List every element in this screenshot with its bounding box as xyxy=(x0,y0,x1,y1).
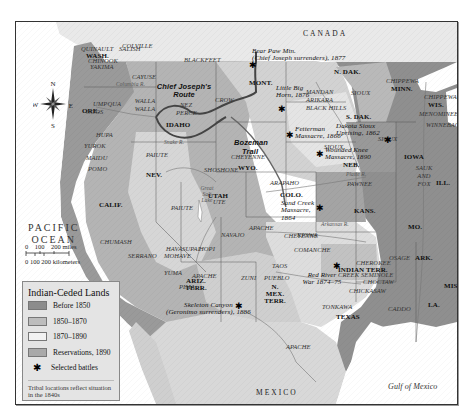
tribe-havasupai: HAVASUPAI xyxy=(166,246,200,253)
tribe-hopi: HOPI xyxy=(199,246,215,253)
tribe-arapaho: ARAPAHO xyxy=(270,180,299,187)
swatch-before-1850 xyxy=(28,301,47,310)
scale-miles: 0 100 200 miles xyxy=(25,243,80,250)
tribe-chippewa-wis: CHIPPEWA xyxy=(424,94,457,101)
tribe-yurok: YUROK xyxy=(84,143,106,150)
legend-item-before-1850: Before 1850 xyxy=(28,298,119,314)
state-la: LA. xyxy=(428,302,440,309)
state-n-dak: N. DAK. xyxy=(334,69,361,76)
legend-title: Indian-Ceded Lands xyxy=(28,287,119,298)
tribe-apache-arizona: APACHE xyxy=(192,273,217,280)
tribe-quinault: QUINAULT xyxy=(81,46,113,53)
swatch-1870-1890 xyxy=(28,332,47,341)
tribe-tonkawa: TONKAWA xyxy=(322,304,352,311)
canada-label: CANADA xyxy=(303,30,347,38)
legend-item-1850-1870: 1850–1870 xyxy=(28,314,119,330)
legend-item-reservations: Reservations, 1890 xyxy=(28,345,119,361)
tribe-yuma: YUMA xyxy=(164,270,182,277)
gulf-of-mexico-label: Gulf of Mexico xyxy=(388,383,437,391)
river-platte: Platte R. xyxy=(346,172,366,178)
tribe-osage: OSAGE xyxy=(389,255,410,262)
tribe-mohave: MOHAVE xyxy=(164,253,191,260)
state-texas: TEXAS xyxy=(336,314,360,321)
swatch-1850-1870 xyxy=(28,317,47,326)
state-iowa: IOWA xyxy=(404,154,424,161)
mexico-label: MEXICO xyxy=(256,389,298,397)
battle-icon: ✱ xyxy=(316,150,324,159)
state-colo: COLO. xyxy=(280,192,303,199)
tribe-colville: COLVILLE xyxy=(122,43,153,50)
tribe-caddo: CADDO xyxy=(388,306,411,313)
scale-bar: 0 100 200 miles 0 100 200 kilometers xyxy=(25,243,80,265)
tribe-nez-perce: NEZ PERCE xyxy=(176,101,196,117)
scale-km: 0 100 200 kilometers xyxy=(25,258,80,265)
tribe-serrano: SERRANO xyxy=(128,253,157,260)
tribe-sauk-and-fox: SAUK AND FOX xyxy=(411,164,437,187)
state-mo: MO. xyxy=(408,224,422,231)
tribe-menominee: MENOMINEE xyxy=(419,111,458,118)
compass-rose-icon: N S W E xyxy=(33,79,73,129)
state-kans: KANS. xyxy=(354,208,376,215)
state-wis: WIS. xyxy=(428,102,444,109)
battle-wounded-knee: Wounded Knee Massacre, 1890 xyxy=(325,147,375,162)
tribe-comanche: COMANCHE xyxy=(294,247,331,254)
great-salt-lake-label: Great Salt Lake xyxy=(198,185,216,203)
legend-item-1870-1890: 1870–1890 xyxy=(28,329,119,345)
tribe-paiute-north: PAIUTE xyxy=(146,152,168,159)
tribe-paiute-south: PAIUTE xyxy=(171,205,193,212)
svg-text:E: E xyxy=(69,102,73,110)
tribe-pomo: POMO xyxy=(88,166,107,173)
tribe-maidu: MAIDU xyxy=(86,155,107,162)
tribe-pueblo: PUEBLO xyxy=(264,275,290,282)
state-wyo: WYO. xyxy=(238,165,258,172)
chief-joseph-route-label: Chief Joseph's Route xyxy=(154,83,214,100)
svg-text:W: W xyxy=(33,101,39,109)
tribe-blackfeet: BLACKFEET xyxy=(184,57,221,64)
tribe-chippewa-minn: CHIPPEWA xyxy=(386,78,419,85)
state-mont: MONT. xyxy=(249,80,273,87)
scale-ruler xyxy=(25,250,70,257)
legend-item-battles: ✱ Selected battles xyxy=(28,360,119,376)
battle-red-river: Red River War 1874–75 xyxy=(301,272,343,287)
state-ark: ARK. xyxy=(415,255,433,262)
battle-icon: ✱ xyxy=(333,262,341,271)
tribe-chickasaw: CHICKASAW xyxy=(349,288,386,295)
tribe-cayuse: CAYUSE xyxy=(132,74,156,81)
svg-text:S: S xyxy=(51,122,55,129)
state-calif: CALIF. xyxy=(99,202,123,209)
tribe-hupa: HUPA xyxy=(96,132,113,139)
battle-dakota-sioux: Dakota Sioux Uprising, 1862 xyxy=(336,123,384,138)
river-arkansas: Arkansas R. xyxy=(321,222,349,228)
tribe-yakima: YAKIMA xyxy=(90,64,114,71)
battle-icon: ✱ xyxy=(28,362,45,373)
black-hills-label: BLACK HILLS xyxy=(306,105,346,112)
state-neb: NEB. xyxy=(343,162,360,169)
tribe-zuni: ZUNI xyxy=(241,275,256,282)
tribe-winnebago: WINNEBAGO xyxy=(426,122,458,129)
battle-icon: ✱ xyxy=(384,136,392,145)
swatch-reservations xyxy=(28,348,47,357)
svg-text:N: N xyxy=(50,80,55,88)
battle-skeleton-canyon: Skeleton Canyon (Geronimo surrenders), 1… xyxy=(166,302,251,317)
state-minn: MINN. xyxy=(391,86,413,93)
tribe-navajo: NAVAJO xyxy=(221,232,245,239)
battle-little-big-horn: Little Big Horn, 1876 xyxy=(276,85,314,100)
state-nev: NEV. xyxy=(146,172,162,179)
tribe-coos: COOS xyxy=(86,109,103,116)
river-snake: Snake R. xyxy=(164,140,184,146)
legend: Indian-Ceded Lands Before 1850 1850–1870… xyxy=(22,281,120,401)
state-ill: ILL. xyxy=(436,180,450,187)
tribe-apache-colorado: APACHE xyxy=(249,225,274,232)
pacific-ocean-label: PACIFIC OCEAN xyxy=(28,222,79,245)
tribe-kiowa: KIOWA xyxy=(297,232,318,239)
state-idaho: IDAHO xyxy=(166,122,190,129)
battle-icon: ✱ xyxy=(278,105,286,114)
state-miss: MISS. xyxy=(444,283,458,290)
battle-icon: ✱ xyxy=(286,131,294,140)
tribe-taos: TAOS xyxy=(272,263,287,270)
tribe-umpqua: UMPQUA xyxy=(93,101,121,108)
tribe-pawnee: PAWNEE xyxy=(347,181,372,188)
battle-bear-paw: Bear Paw Mtn. (Chief Joseph surrenders),… xyxy=(252,48,345,63)
tribe-choctaw: CHOCTAW xyxy=(363,279,394,286)
tribe-shoshone: SHOSHONE xyxy=(204,167,238,174)
